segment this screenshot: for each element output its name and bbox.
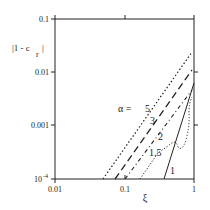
chart-canvas: 0.1 0.01 0.001 10 -4 0.01 0.1 1 ξ |1 - c…: [0, 0, 210, 210]
y-tick-1e-4: 10 -4: [34, 173, 48, 184]
y-tick-0.001: 0.001: [31, 121, 49, 130]
series-alpha-1: [164, 83, 194, 179]
x-tick-1: 1: [192, 185, 196, 194]
label-alpha-1: 1: [170, 165, 175, 176]
x-tick-0.1: 0.1: [120, 185, 130, 194]
y-tick-exponent: -4: [43, 173, 48, 179]
series-lines: [103, 52, 194, 179]
label-alpha-3: 3: [150, 115, 155, 126]
alpha-prefix-label: α =: [118, 103, 132, 114]
y-tick-0.01: 0.01: [35, 68, 49, 77]
y-axis-label: |1 - c r |: [12, 43, 44, 59]
y-axis-label-main: |1 - c: [12, 43, 30, 53]
y-axis-label-sub: r: [36, 50, 39, 59]
x-axis-label: ξ: [143, 192, 148, 204]
y-tick-0.1: 0.1: [39, 15, 49, 24]
axis-ticks: [51, 15, 198, 183]
label-alpha-5: 5: [145, 103, 150, 114]
series-alpha-5: [103, 52, 192, 179]
y-tick-base: 10: [34, 175, 42, 184]
plot-frame: [55, 19, 194, 179]
label-alpha-2: 2: [158, 131, 163, 142]
x-tick-0.01: 0.01: [48, 185, 62, 194]
label-alpha-1.5: 1.5: [149, 147, 162, 158]
y-axis-label-end: |: [42, 43, 44, 53]
